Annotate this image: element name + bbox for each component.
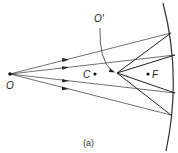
reflected-rays <box>117 33 175 115</box>
incident-ray-2 <box>10 55 175 74</box>
focus-label: F <box>152 69 159 80</box>
arrowhead-icon <box>62 58 69 62</box>
center-label: C <box>83 69 91 80</box>
object-label: O <box>6 80 14 91</box>
center-point <box>93 72 96 75</box>
incident-rays <box>10 33 175 115</box>
reflected-ray-2 <box>117 55 175 73</box>
incident-ray-4 <box>10 74 171 115</box>
concave-mirror <box>163 3 173 151</box>
concave-mirror-ray-diagram: O O' C F (a) <box>0 0 178 153</box>
ray-arrowheads <box>62 58 69 90</box>
arrowhead-icon <box>62 79 69 83</box>
reflected-ray-1 <box>117 33 171 73</box>
incident-ray-1 <box>10 33 171 74</box>
object-point <box>8 72 12 76</box>
incident-ray-3 <box>10 74 175 93</box>
arrowhead-icon <box>62 66 69 70</box>
image-label: O' <box>94 13 105 24</box>
reflected-ray-4 <box>117 73 171 115</box>
focus-point <box>146 72 149 75</box>
figure-caption: (a) <box>83 138 94 148</box>
leader-arrowhead-icon <box>109 69 116 73</box>
